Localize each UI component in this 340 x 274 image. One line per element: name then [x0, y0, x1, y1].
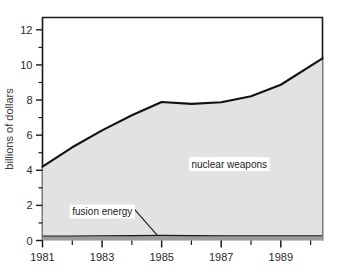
- y-tick-label: 8: [26, 94, 32, 106]
- y-tick-label: 10: [20, 59, 32, 71]
- x-tick-label: 1981: [30, 251, 54, 263]
- y-tick-label: 6: [26, 129, 32, 141]
- series-line-fusion-energy: [43, 235, 323, 236]
- fusion-energy-label: fusion energy: [72, 206, 132, 217]
- x-tick-label: 1987: [209, 251, 233, 263]
- nuclear-weapons-label: nuclear weapons: [191, 159, 267, 170]
- x-tick-label: 1989: [269, 251, 293, 263]
- y-tick-label: 2: [26, 199, 32, 211]
- y-tick-label: 0: [26, 235, 32, 247]
- annotation-nuclear-weapons: nuclear weapons: [189, 157, 270, 171]
- chart-figure: 024681012 19811983198519871989 billions …: [0, 0, 340, 274]
- y-tick-label: 12: [20, 24, 32, 36]
- x-tick-label: 1985: [149, 251, 173, 263]
- y-tick-label: 4: [26, 164, 32, 176]
- area-chart: 024681012 19811983198519871989 billions …: [0, 0, 340, 274]
- y-axis-title: billions of dollars: [3, 88, 15, 170]
- x-tick-label: 1983: [90, 251, 114, 263]
